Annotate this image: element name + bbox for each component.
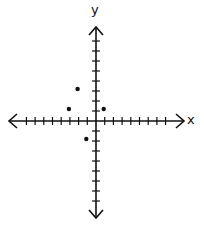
data-point [84,137,88,141]
data-point [75,87,79,91]
data-point [102,107,106,111]
coordinate-plane: x y [0,0,204,228]
y-axis-label: y [91,3,99,16]
x-axis-label: x [187,113,195,126]
data-point [67,107,71,111]
data-points [67,87,106,141]
